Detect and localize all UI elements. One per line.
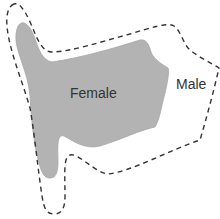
region-diagram: Female Male [0, 0, 220, 219]
female-label: Female [70, 85, 117, 101]
male-label: Male [176, 76, 207, 92]
